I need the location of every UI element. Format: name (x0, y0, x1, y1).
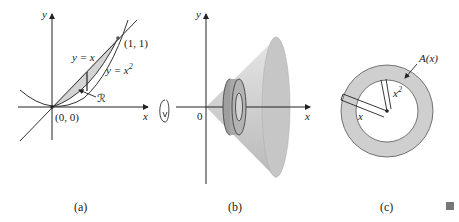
point-1-1 (116, 36, 120, 40)
point-1-1-label: (1, 1) (124, 37, 148, 50)
rotation-arrow-icon (160, 100, 169, 122)
x-axis-label-b: x (304, 110, 310, 122)
x-axis-label: x (142, 110, 148, 122)
panel-b: y x 0 (b) (160, 8, 310, 214)
area-label: A(x) (418, 52, 438, 65)
figure-canvas: y x (1, 1) (0, 0) y = x y = x2 ℛ (a) y x… (0, 0, 459, 222)
line-label: y = x (71, 51, 95, 63)
region-pointer-arrow (79, 90, 96, 97)
point-origin-label: (0, 0) (55, 111, 79, 124)
panel-c: A(x) x x2 (c) (341, 52, 454, 214)
washer-hole (236, 93, 243, 121)
caption-c: (c) (380, 200, 393, 214)
panel-a: y x (1, 1) (0, 0) y = x y = x2 ℛ (a) (18, 8, 148, 214)
outer-radius-label: x (357, 110, 363, 122)
region-label: ℛ (97, 92, 106, 104)
y-axis-label-b: y (195, 8, 201, 20)
parabola-label: y = x2 (105, 62, 133, 76)
y-axis-label: y (41, 8, 47, 20)
origin-label-b: 0 (197, 110, 203, 122)
end-of-proof-square-icon (446, 202, 454, 210)
point-origin (50, 105, 54, 109)
caption-b: (b) (228, 200, 242, 214)
caption-a: (a) (74, 200, 87, 214)
